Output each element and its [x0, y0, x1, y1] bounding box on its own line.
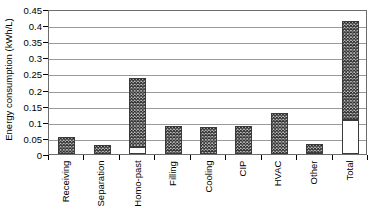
- bar-segment-upper: [200, 127, 217, 154]
- x-axis-label-text: Total: [344, 160, 355, 180]
- y-tick-label: 0.25: [8, 69, 42, 80]
- y-tick-label: 0.45: [8, 5, 42, 16]
- bar-segment-lower: [342, 120, 359, 154]
- y-tick-label: 0.4: [8, 21, 42, 32]
- x-tick-mark: [261, 155, 262, 160]
- x-axis-label-text: Receiving: [60, 161, 71, 203]
- bar: [58, 137, 75, 154]
- bar-segment-upper: [235, 126, 252, 154]
- x-tick-mark: [119, 155, 120, 160]
- bar: [235, 126, 252, 154]
- bar-segment-upper: [94, 145, 111, 154]
- bar: [306, 144, 323, 154]
- bar-segment-upper: [342, 21, 359, 120]
- x-axis-label-text: Separation: [96, 161, 107, 207]
- gridline: [49, 43, 366, 44]
- bar-segment-lower: [129, 147, 146, 154]
- bar-segment-upper: [58, 137, 75, 154]
- gridline: [49, 124, 366, 125]
- gridline: [49, 27, 366, 28]
- bar: [200, 127, 217, 154]
- gridline: [49, 59, 366, 60]
- x-axis-label-text: Other: [308, 161, 319, 185]
- y-tick-label: 0.15: [8, 101, 42, 112]
- bar: [271, 113, 288, 154]
- bar-segment-upper: [306, 144, 323, 154]
- x-tick-mark: [190, 155, 191, 160]
- x-axis-label-text: Cooling: [202, 160, 213, 192]
- y-tick-label: 0.1: [8, 117, 42, 128]
- y-tick-label: 0: [8, 150, 42, 161]
- x-tick-mark: [225, 155, 226, 160]
- gridline: [49, 108, 366, 109]
- bar: [342, 21, 359, 154]
- gridline: [49, 92, 366, 93]
- bar: [94, 145, 111, 154]
- x-tick-mark: [154, 155, 155, 160]
- energy-consumption-bar-chart: Energy consumption (kWh/L) 00.050.10.150…: [0, 0, 374, 221]
- x-axis-label: Total: [320, 161, 374, 219]
- bar: [129, 78, 146, 154]
- plot-area: [48, 10, 367, 155]
- x-tick-mark: [367, 155, 368, 160]
- bar-segment-upper: [165, 126, 182, 154]
- bar: [165, 126, 182, 154]
- x-tick-mark: [83, 155, 84, 160]
- y-tick-label: 0.05: [8, 133, 42, 144]
- x-axis-labels: ReceivingSeparationHomo-pastFillingCooli…: [48, 161, 367, 221]
- bar-segment-upper: [271, 113, 288, 154]
- x-tick-mark: [48, 155, 49, 160]
- y-tick-label: 0.2: [8, 85, 42, 96]
- x-axis-label-text: Filling: [166, 161, 177, 186]
- gridline: [49, 75, 366, 76]
- y-tick-label: 0.35: [8, 37, 42, 48]
- x-axis-label-text: Homo-past: [131, 160, 142, 206]
- x-tick-mark: [332, 155, 333, 160]
- y-tick-label: 0.3: [8, 53, 42, 64]
- bar-segment-upper: [129, 78, 146, 147]
- x-tick-mark: [296, 155, 297, 160]
- x-axis-label-text: CIP: [237, 161, 248, 177]
- x-axis-label-text: HVAC: [273, 161, 284, 187]
